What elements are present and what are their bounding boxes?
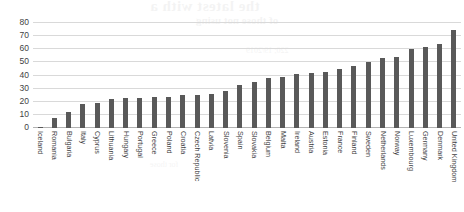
bar <box>451 30 456 128</box>
x-axis-category-label: Iceland <box>37 131 44 154</box>
bar-chart: 01020304050607080 IcelandRomaniaBulgaria… <box>0 0 464 212</box>
x-axis-category-label: Cyprus <box>94 131 101 154</box>
bar-slot <box>33 23 47 128</box>
bar <box>166 97 171 129</box>
bar <box>409 49 414 128</box>
x-axis-label-slot: Croatia <box>176 130 190 210</box>
x-axis-category-label: Portugal <box>136 131 143 158</box>
x-axis-category-label: Hungary <box>122 131 129 158</box>
x-axis-label-slot: Bulgaria <box>62 130 76 210</box>
x-axis-label-slot: Finland <box>347 130 361 210</box>
bar-slot <box>361 23 375 128</box>
x-axis-category-label: Luxembourg <box>407 131 414 171</box>
bar-slot <box>133 23 147 128</box>
bar <box>137 98 142 128</box>
y-axis-tick-label: 30 <box>20 83 29 92</box>
x-axis-category-label: Latvia <box>208 131 215 150</box>
x-axis-label-slot: Poland <box>161 130 175 210</box>
x-axis-category-label: Poland <box>165 131 172 153</box>
bar-slot <box>404 23 418 128</box>
bar-slot <box>147 23 161 128</box>
x-axis-category-label: Belgium <box>265 131 272 157</box>
x-axis-label-slot: Spain <box>233 130 247 210</box>
bar-slot <box>418 23 432 128</box>
x-axis-label-slot: Iceland <box>33 130 47 210</box>
x-axis-category-label: Greece <box>151 131 158 155</box>
y-axis-tick-label: 70 <box>20 31 29 40</box>
bar-slot <box>290 23 304 128</box>
bar <box>280 77 285 128</box>
x-axis-category-label: Lithuania <box>108 131 115 160</box>
bar-slot <box>161 23 175 128</box>
y-axis-tick-label: 40 <box>20 70 29 79</box>
x-axis-label-slot: Austria <box>304 130 318 210</box>
x-axis-category-label: Austria <box>308 131 315 153</box>
bar <box>66 112 71 128</box>
bar <box>80 104 85 128</box>
x-axis-category-label: Ireland <box>293 131 300 153</box>
bar-slot <box>261 23 275 128</box>
bar-slot <box>47 23 61 128</box>
bar-slot <box>375 23 389 128</box>
x-axis-category-label: Denmark <box>436 131 443 160</box>
x-axis-category-label: Croatia <box>179 131 186 154</box>
bar-slot <box>190 23 204 128</box>
bar-slot <box>76 23 90 128</box>
bar <box>437 44 442 128</box>
x-axis-category-label: France <box>336 131 343 153</box>
x-axis-label-slot: Sweden <box>361 130 375 210</box>
bar <box>52 118 57 129</box>
x-axis-category-label: Finland <box>350 131 357 155</box>
bar <box>380 58 385 128</box>
x-axis-category-label: Malta <box>279 131 286 149</box>
x-axis-category-label: Germany <box>422 131 429 161</box>
x-axis-label-slot: Luxembourg <box>404 130 418 210</box>
x-axis-category-label: Spain <box>236 131 243 149</box>
x-axis-category-label: Estonia <box>322 131 329 155</box>
bar-series <box>33 23 461 128</box>
bar <box>309 73 314 128</box>
bar-slot <box>204 23 218 128</box>
bar <box>195 95 200 128</box>
bar <box>109 99 114 128</box>
bar-slot <box>233 23 247 128</box>
x-axis-category-label: Czech Republic <box>193 131 200 181</box>
x-axis-label-slot: Denmark <box>432 130 446 210</box>
bar-slot <box>333 23 347 128</box>
x-axis-label-slot: Netherlands <box>375 130 389 210</box>
plot-area: 01020304050607080 <box>33 23 461 128</box>
x-axis-category-label: Netherlands <box>379 131 386 170</box>
y-axis-tick-label: 10 <box>20 110 29 119</box>
bar <box>337 69 342 128</box>
bar-slot <box>176 23 190 128</box>
x-axis-category-label: Italy <box>79 131 86 144</box>
x-axis-category-label: Bulgaria <box>65 131 72 157</box>
x-axis-labels: IcelandRomaniaBulgariaItalyCyprusLithuan… <box>33 130 461 210</box>
y-axis-tick-label: 20 <box>20 97 29 106</box>
bar <box>209 94 214 128</box>
bar <box>294 74 299 128</box>
x-axis-label-slot: France <box>333 130 347 210</box>
x-axis-label-slot: Czech Republic <box>190 130 204 210</box>
x-axis-label-slot: Slovakia <box>247 130 261 210</box>
y-axis-tick-label: 0 <box>24 123 29 132</box>
x-axis-label-slot: Malta <box>276 130 290 210</box>
x-axis-label-slot: Greece <box>147 130 161 210</box>
x-axis-label-slot: Ireland <box>290 130 304 210</box>
bar <box>366 62 371 128</box>
x-axis-label-slot: Lithuania <box>104 130 118 210</box>
bar-slot <box>447 23 461 128</box>
x-axis-category-label: Romania <box>51 131 58 160</box>
x-axis-category-label: United Kingdom <box>450 131 457 182</box>
x-axis-label-slot: Portugal <box>133 130 147 210</box>
bar <box>394 57 399 128</box>
bar-slot <box>347 23 361 128</box>
bar-slot <box>304 23 318 128</box>
x-axis-label-slot: Cyprus <box>90 130 104 210</box>
y-axis-tick-label: 50 <box>20 57 29 66</box>
x-axis-label-slot: Latvia <box>204 130 218 210</box>
bar-slot <box>432 23 446 128</box>
bar <box>423 47 428 128</box>
bar-slot <box>62 23 76 128</box>
x-axis-label-slot: Hungary <box>119 130 133 210</box>
